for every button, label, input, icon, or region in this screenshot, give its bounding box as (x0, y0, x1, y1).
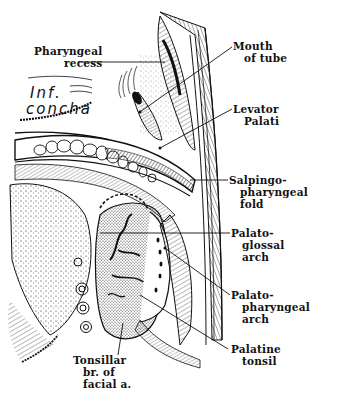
label-line: br. of (73, 366, 131, 378)
label-line: recess (34, 57, 102, 69)
torus-tubarius (119, 16, 195, 150)
label-mouth-of-tube: Mouth of tube (233, 40, 287, 64)
label-line: Palato- (231, 227, 284, 239)
label-line: Salpingo- (229, 174, 308, 186)
label-line: Tonsillar (73, 354, 131, 366)
label-tonsillar-branch: Tonsillar br. of facial a. (73, 354, 131, 390)
label-palatine-tonsil: Palatine tonsil (231, 343, 281, 367)
label-line: Palati (233, 115, 279, 127)
label-inf-concha: Inf. concha (26, 84, 92, 118)
label-palatopharyngeal-arch: Palato- pharyngeal arch (231, 289, 310, 325)
label-line: Mouth (233, 40, 287, 52)
tongue-region (8, 184, 91, 362)
label-levator-palati: Levator Palati (233, 103, 279, 127)
label-line: concha (26, 100, 92, 118)
label-line: pharyngeal (229, 186, 308, 198)
label-line: Palatine (231, 343, 281, 355)
label-line: pharyngeal (231, 301, 310, 313)
label-line: Levator (233, 103, 279, 115)
label-salpingopharyngeal-fold: Salpingo- pharyngeal fold (229, 174, 308, 210)
label-line: arch (231, 251, 284, 263)
tonsillar-fossa (95, 194, 200, 368)
label-palatoglossal-arch: Palato- glossal arch (231, 227, 284, 263)
label-line: facial a. (73, 378, 131, 390)
label-line: of tube (233, 52, 287, 64)
label-line: tonsil (231, 355, 281, 367)
label-line: glossal (231, 239, 284, 251)
label-line: fold (229, 198, 308, 210)
label-line: arch (231, 313, 310, 325)
label-pharyngeal-recess: Pharyngeal recess (34, 45, 102, 69)
label-line: Pharyngeal (34, 45, 102, 57)
label-line: Palato- (231, 289, 310, 301)
